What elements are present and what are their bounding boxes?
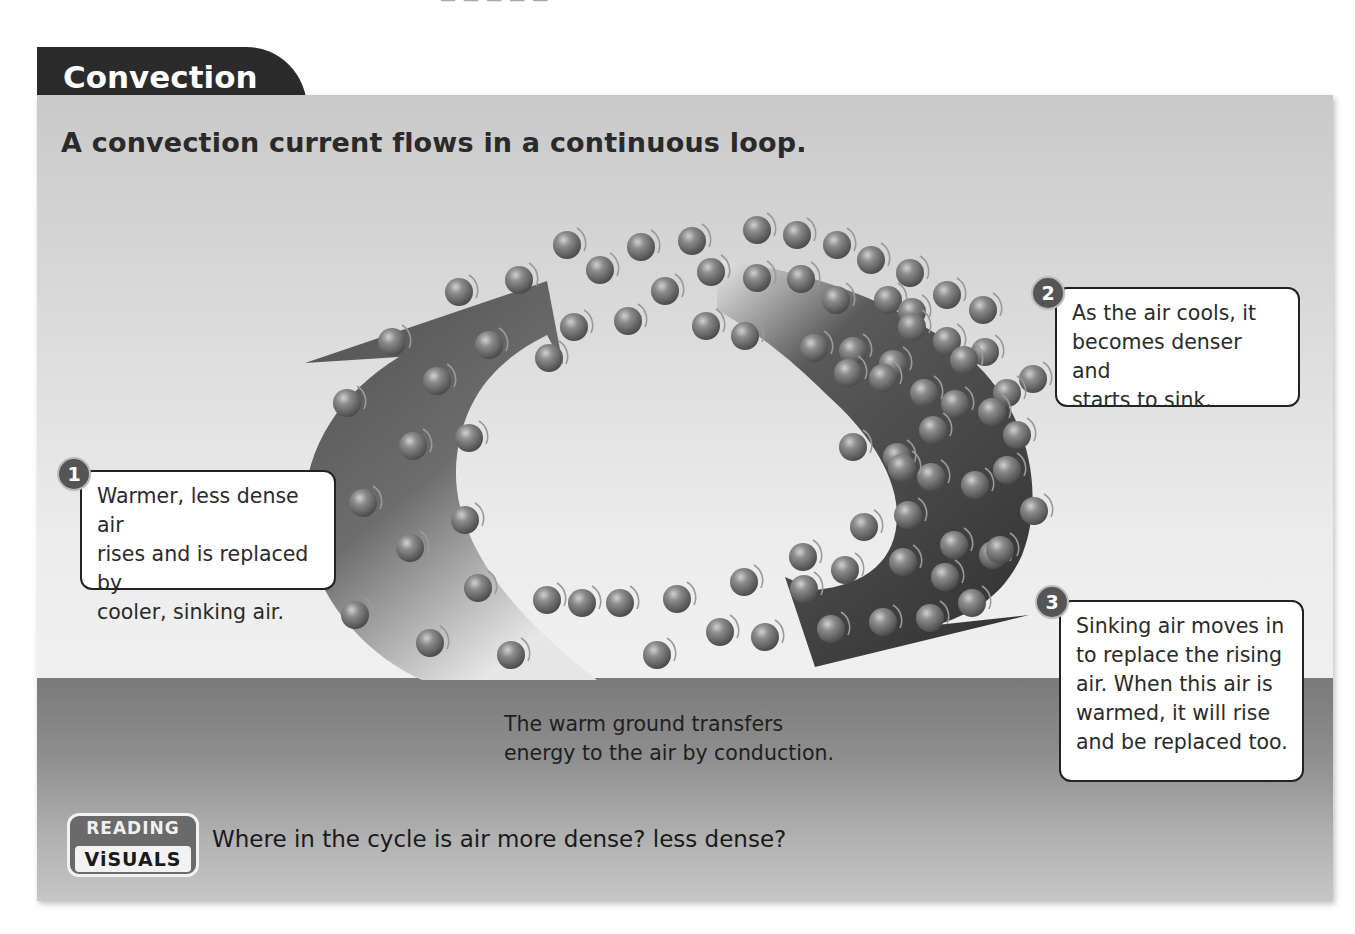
callout-3-line: and be replaced too. (1076, 728, 1288, 757)
air-molecule-icon (349, 489, 377, 517)
air-molecule-icon (333, 389, 361, 417)
air-molecule-icon (692, 312, 720, 340)
air-molecule-icon (743, 264, 771, 292)
callout-3-line: to replace the rising (1076, 641, 1288, 670)
callout-3-line: Sinking air moves in (1076, 612, 1288, 641)
air-molecule-icon (475, 331, 503, 359)
air-molecule-icon (817, 615, 845, 643)
air-molecule-icon (839, 433, 867, 461)
air-molecule-icon (378, 328, 406, 356)
callout-3-line: air. When this air is (1076, 670, 1288, 699)
air-molecule-icon (978, 398, 1006, 426)
air-molecule-icon (787, 265, 815, 293)
callout-2-line: As the air cools, it (1072, 299, 1284, 328)
callout-2-line: starts to sink. (1072, 386, 1284, 415)
air-molecule-icon (831, 556, 859, 584)
air-molecule-icon (898, 313, 926, 341)
air-molecule-icon (553, 231, 581, 259)
air-molecule-icon (568, 589, 596, 617)
air-molecule-icon (850, 513, 878, 541)
callout-warm-air-rises: Warmer, less dense air rises and is repl… (80, 470, 336, 590)
air-molecule-icon (533, 586, 561, 614)
ground-caption-line: The warm ground transfers (504, 710, 834, 739)
ground-conduction-caption: The warm ground transfers energy to the … (504, 710, 834, 768)
air-molecule-icon (341, 601, 369, 629)
air-molecule-icon (743, 216, 771, 244)
air-molecule-icon (857, 246, 885, 274)
ground-caption-line: energy to the air by conduction. (504, 739, 834, 768)
air-molecule-icon (678, 227, 706, 255)
air-molecule-icon (614, 307, 642, 335)
air-molecule-icon (888, 454, 916, 482)
air-molecule-icon (1020, 497, 1048, 525)
air-molecule-icon (423, 367, 451, 395)
air-molecule-icon (869, 608, 897, 636)
air-molecule-icon (869, 364, 897, 392)
air-molecule-icon (399, 432, 427, 460)
air-molecule-icon (606, 589, 634, 617)
air-molecule-icon (455, 424, 483, 452)
air-molecule-icon (894, 501, 922, 529)
air-molecule-icon (497, 641, 525, 669)
air-molecule-icon (586, 256, 614, 284)
air-molecule-icon (783, 221, 811, 249)
air-molecule-icon (445, 278, 473, 306)
callout-1-line: cooler, sinking air. (97, 598, 320, 627)
step-1-badge: 1 (59, 459, 89, 489)
air-molecule-icon (823, 231, 851, 259)
air-molecule-icon (910, 379, 938, 407)
air-molecule-icon (896, 259, 924, 287)
badge-reading-label: READING (70, 818, 196, 838)
air-molecule-icon (396, 534, 424, 562)
air-molecule-icon (950, 346, 978, 374)
air-molecule-icon (416, 629, 444, 657)
badge-visuals-label: ViSUALS (75, 846, 191, 872)
air-molecule-icon (940, 531, 968, 559)
air-molecule-icon (958, 589, 986, 617)
callout-sinking-air-replaces: Sinking air moves in to replace the risi… (1059, 600, 1304, 782)
air-molecule-icon (643, 641, 671, 669)
callout-air-cools-sinks: As the air cools, it becomes denser and … (1055, 287, 1300, 407)
callout-2-line: becomes denser and (1072, 328, 1284, 386)
air-molecule-icon (986, 536, 1014, 564)
air-molecule-icon (993, 456, 1021, 484)
reading-visuals-badge: READING ViSUALS (67, 813, 199, 877)
air-molecule-icon (931, 563, 959, 591)
air-molecule-icon (535, 344, 563, 372)
air-molecule-icon (560, 313, 588, 341)
callout-3-line: warmed, it will rise (1076, 699, 1288, 728)
air-molecule-icon (751, 623, 779, 651)
air-molecule-icon (651, 277, 679, 305)
air-molecule-icon (1003, 421, 1031, 449)
air-molecule-icon (919, 416, 947, 444)
reading-visuals-question: Where in the cycle is air more dense? le… (212, 826, 786, 852)
air-molecule-icon (1019, 365, 1047, 393)
air-molecule-icon (834, 359, 862, 387)
previous-page-text-fragment: — — — — — (440, 0, 549, 9)
air-molecule-icon (790, 575, 818, 603)
air-molecule-icon (663, 585, 691, 613)
air-molecule-icon (505, 266, 533, 294)
air-molecule-icon (800, 334, 828, 362)
air-molecule-icon (933, 281, 961, 309)
callout-1-line: rises and is replaced by (97, 540, 320, 598)
air-molecule-icon (731, 322, 759, 350)
air-molecule-icon (961, 471, 989, 499)
air-molecule-icon (627, 233, 655, 261)
air-molecule-icon (874, 286, 902, 314)
air-molecule-icon (451, 506, 479, 534)
step-2-badge: 2 (1033, 278, 1063, 308)
step-3-badge: 3 (1037, 587, 1067, 617)
air-molecule-icon (889, 548, 917, 576)
air-molecule-icon (464, 574, 492, 602)
air-molecule-icon (916, 604, 944, 632)
air-molecule-icon (969, 296, 997, 324)
convection-diagram-panel: A convection current flows in a continuo… (37, 95, 1333, 901)
air-molecule-icon (789, 543, 817, 571)
callout-1-line: Warmer, less dense air (97, 482, 320, 540)
air-molecule-icon (697, 258, 725, 286)
section-title: Convection (63, 59, 258, 95)
air-molecule-icon (822, 286, 850, 314)
air-molecule-icon (730, 568, 758, 596)
air-molecule-icon (706, 618, 734, 646)
